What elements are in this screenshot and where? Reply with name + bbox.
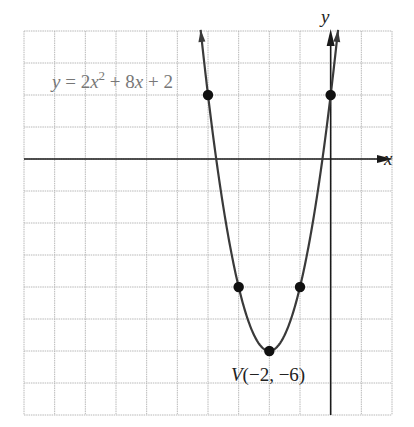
- data-point: [203, 90, 213, 100]
- eq-coef: = 2: [60, 71, 90, 92]
- parabola-chart: x y y = 2x2 + 8x + 2 V(−2, −6): [0, 0, 414, 427]
- eq-mid: + 8: [105, 71, 135, 92]
- vertex-point: [264, 346, 274, 356]
- vertex-label-coords: (−2, −6): [243, 364, 306, 386]
- equation-label: y = 2x2 + 8x + 2: [50, 68, 173, 92]
- x-axis-label: x: [383, 148, 393, 169]
- y-axis-arrow-icon: [327, 29, 335, 46]
- data-point: [233, 282, 243, 292]
- data-point: [295, 282, 305, 292]
- vertex-label: V(−2, −6): [231, 364, 305, 386]
- data-point: [325, 90, 335, 100]
- eq-lhs: y: [50, 71, 61, 92]
- y-axis-label: y: [319, 6, 330, 27]
- eq-end: + 2: [143, 71, 173, 92]
